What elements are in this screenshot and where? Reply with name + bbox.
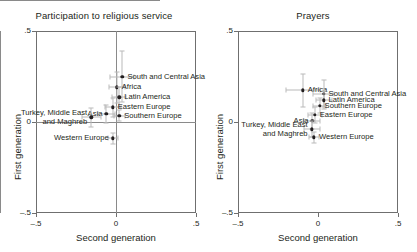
data-point-label: Western Europe: [54, 134, 109, 143]
xtick-2: [398, 213, 399, 217]
figure-two-panel-scatter: Participation to religious service South…: [0, 0, 417, 252]
ytick-label-1: 0: [216, 117, 233, 126]
errorbar-cap-right: [100, 115, 101, 120]
errorbar-cap-top: [117, 87, 122, 88]
data-point-label: Turkey, Middle Eastand Maghreb: [241, 121, 307, 138]
errorbar-cap-top: [114, 71, 119, 72]
errorbar-cap-right: [319, 127, 320, 132]
errorbar-cap-left: [313, 91, 314, 96]
errorbar-cap-top: [317, 98, 322, 99]
xtick-label-1: 0: [306, 219, 330, 228]
panel-title-right: Prayers: [209, 10, 417, 21]
data-point-label-line: Africa: [122, 83, 141, 92]
errorbar-cap-right: [117, 136, 118, 141]
ytick-label-2: .5: [14, 26, 31, 35]
xtick-label-0: –.5: [24, 219, 48, 228]
xtick-label-0: –.5: [226, 219, 250, 228]
data-point-label: Southern Europe: [124, 111, 181, 120]
errorbar-cap-left: [108, 85, 109, 90]
errorbar-cap-top: [310, 112, 315, 113]
errorbar-cap-right: [320, 119, 321, 124]
data-point-label: Western Europe: [319, 133, 374, 142]
errorbar-cap-left: [110, 74, 111, 79]
errorbar-cap-left: [315, 98, 316, 103]
xtick-0: [238, 213, 239, 217]
errorbar-cap-bottom: [312, 122, 317, 123]
xtick-2: [196, 213, 197, 217]
ytick-label-1: 0: [14, 117, 31, 126]
ytick-2: [234, 31, 238, 32]
xtick-0: [36, 213, 37, 217]
data-point-label-line: Western Europe: [54, 134, 109, 143]
xtick-1: [116, 213, 117, 217]
errorbar-cap-bottom: [89, 126, 94, 127]
ytick-1: [32, 122, 36, 123]
errorbar-cap-top: [300, 73, 305, 74]
xaxis-title-right: Second generation: [238, 232, 398, 243]
data-point-label-line: Latin America: [124, 93, 170, 102]
errorbar-cap-bottom: [110, 143, 115, 144]
errorbar-cap-top: [312, 132, 317, 133]
errorbar-cap-bottom: [104, 122, 109, 123]
errorbar-cap-bottom: [117, 121, 122, 122]
data-point-label: Eastern Europe: [320, 110, 373, 119]
errorbar-cap-bottom: [300, 106, 305, 107]
panel-participation: Participation to religious service South…: [0, 0, 208, 252]
ytick-label-2: .5: [216, 26, 233, 35]
xtick-1: [318, 213, 319, 217]
errorbar-cap-top: [321, 80, 326, 81]
errorbar-cap-right: [115, 111, 116, 116]
errorbar-cap-top: [309, 121, 314, 122]
ytick-2: [32, 31, 36, 32]
data-point-label: Africa: [122, 83, 141, 92]
data-point-label-line: and Maghreb: [241, 129, 307, 138]
reference-line-y0-right: [0, 0, 160, 1]
xtick-label-2: .5: [184, 219, 208, 228]
errorbar-cap-top: [110, 132, 115, 133]
errorbar-cap-left: [309, 135, 310, 140]
reference-line-x0-right: [0, 31, 1, 213]
xtick-label-2: .5: [386, 219, 410, 228]
data-point-label-line: Western Europe: [319, 133, 374, 142]
ytick-label-0: –.5: [216, 208, 233, 217]
data-point-label: Latin America: [124, 93, 170, 102]
data-point-label-line: South and Central Asia: [127, 72, 205, 81]
xtick-label-1: 0: [104, 219, 128, 228]
errorbar-cap-top: [120, 51, 125, 52]
errorbar-cap-top: [321, 91, 326, 92]
errorbar-cap-top: [104, 104, 109, 105]
panel-title-left: Participation to religious service: [0, 10, 208, 21]
data-point-label-line: Southern Europe: [124, 111, 181, 120]
data-point-label-line: Eastern Europe: [320, 110, 373, 119]
panel-prayers: Prayers AfricaSouth and Central AsiaLati…: [209, 0, 417, 252]
data-point-label: South and Central Asia: [127, 72, 205, 81]
errorbar-cap-bottom: [312, 142, 317, 143]
ytick-label-0: –.5: [14, 208, 31, 217]
xaxis-title-left: Second generation: [36, 232, 196, 243]
ytick-1: [234, 122, 238, 123]
errorbar-cap-top: [89, 108, 94, 109]
errorbar-cap-top: [110, 98, 115, 99]
errorbar-cap-top: [117, 110, 122, 111]
errorbar-cap-top: [312, 106, 317, 107]
errorbar-cap-left: [286, 88, 287, 93]
